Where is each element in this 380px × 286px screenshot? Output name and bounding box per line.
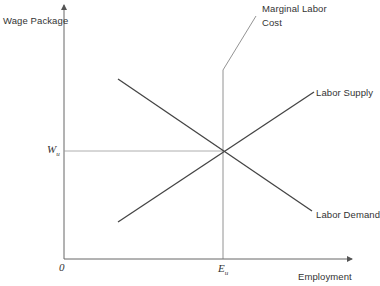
wage-tick-base: W: [47, 143, 56, 155]
origin-label: 0: [59, 261, 65, 273]
labor-demand-label: Labor Demand: [316, 209, 380, 220]
labor-supply-label: Labor Supply: [316, 87, 373, 98]
employment-tick-sub: u: [225, 269, 229, 277]
wage-tick-label: Wu: [47, 143, 60, 158]
wage-tick-sub: u: [56, 150, 60, 158]
labor-demand-line: [118, 79, 312, 211]
y-axis-label: Wage Package: [3, 15, 68, 26]
marginal-labor-cost-line: [223, 16, 256, 259]
employment-tick-base: E: [218, 262, 225, 274]
mlc-label-line2: Cost: [262, 17, 282, 28]
mlc-label-line1: Marginal Labor: [262, 3, 327, 14]
employment-tick-label: Eu: [218, 262, 228, 277]
labor-supply-line: [118, 92, 314, 222]
x-axis-label: Employment: [298, 271, 352, 282]
